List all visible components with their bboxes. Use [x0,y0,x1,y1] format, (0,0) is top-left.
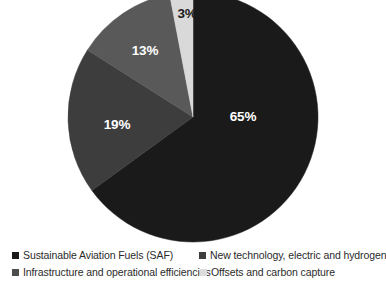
legend-swatch-icon [12,252,19,259]
legend-swatch-icon [12,269,19,276]
legend-swatch-icon [199,252,206,259]
legend-item-offsets-carbon-capture[interactable]: Offsets and carbon capture [200,263,335,281]
legend-item-label: Offsets and carbon capture [211,266,335,278]
legend-swatch-icon [200,269,207,276]
legend-item-infrastructure-efficiencies[interactable]: Infrastructure and operational efficienc… [12,263,211,281]
pie-slice-data-label: 13% [132,43,159,58]
chart-legend: Sustainable Aviation Fuels (SAF) New tec… [0,245,379,292]
legend-item-label: Infrastructure and operational efficienc… [23,266,211,278]
pie-slice-data-label: 19% [104,117,131,132]
legend-row: Sustainable Aviation Fuels (SAF) New tec… [0,246,379,264]
legend-item-label: New technology, electric and hydrogen [210,249,386,261]
pie-slice-data-label: 65% [230,109,257,124]
pie-svg: 65%19%13%3% [0,0,379,246]
legend-row: Infrastructure and operational efficienc… [0,263,379,281]
pie-slice-data-label: 3% [177,6,196,21]
legend-item-new-technology[interactable]: New technology, electric and hydrogen [199,246,386,264]
pie-plot-area: 65%19%13%3% [0,0,379,246]
legend-item-sustainable-aviation-fuels[interactable]: Sustainable Aviation Fuels (SAF) [12,246,173,264]
legend-item-label: Sustainable Aviation Fuels (SAF) [23,249,173,261]
